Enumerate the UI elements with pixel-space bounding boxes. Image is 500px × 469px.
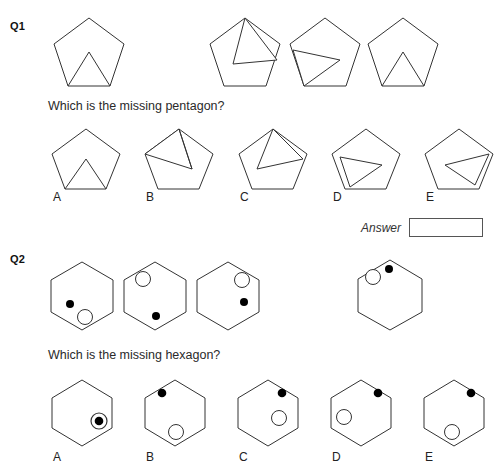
filled-dot [240,298,248,306]
answer-row-q1: Answer [361,218,483,237]
prompt-q1: Which is the missing pentagon? [48,99,224,113]
hexagon-option-a[interactable] [48,378,116,448]
pentagon-sequence-3 [288,16,362,90]
option-letter-q1-e: E [426,190,434,204]
answer-label-q1: Answer [361,221,401,235]
option-letter-q2-c: C [239,450,248,464]
filled-dot [278,389,287,398]
open-circle [366,270,381,285]
hexagon-sequence-3 [194,260,262,332]
filled-dot [152,312,160,320]
hexagon-option-e[interactable] [420,378,488,448]
hexagon-sequence-2 [121,260,189,332]
option-letter-q1-c: C [240,190,249,204]
option-letter-q2-e: E [425,450,433,464]
filled-dot [66,300,74,308]
prompt-q2: Which is the missing hexagon? [48,348,220,362]
filled-dot [158,389,167,398]
option-letter-q2-b: B [146,450,154,464]
hexagon-option-d[interactable] [327,378,395,448]
option-letter-q2-a: A [53,450,61,464]
pentagon-sequence-4 [366,16,440,90]
question-label-q1: Q1 [10,20,25,32]
hexagon-option-b[interactable] [141,378,209,448]
question-label-q2: Q2 [10,253,25,265]
filled-dot [385,265,393,273]
pentagon-option-e[interactable] [423,127,495,192]
pentagon-sequence-1 [52,16,126,90]
pentagon-option-d[interactable] [330,127,402,192]
option-letter-q1-b: B [146,190,154,204]
hexagon-option-c[interactable] [234,378,302,448]
answer-input-q1[interactable] [409,218,483,237]
open-circle [169,425,184,440]
hexagon-sequence-4 [354,258,426,332]
open-circle [235,273,250,288]
open-circle [445,425,460,440]
filled-dot [95,417,104,426]
filled-dot [374,389,383,398]
open-circle [337,410,352,425]
option-letter-q1-d: D [333,190,342,204]
pentagon-option-a[interactable] [50,127,122,192]
pentagon-option-c[interactable] [237,127,309,192]
open-circle [136,272,151,287]
hexagon-sequence-1 [48,260,116,332]
open-circle [272,411,287,426]
filled-dot [467,389,476,398]
open-circle [78,310,93,325]
pentagon-option-b[interactable] [143,127,215,192]
option-letter-q2-d: D [332,450,341,464]
option-letter-q1-a: A [53,190,61,204]
pentagon-sequence-2 [208,16,282,90]
